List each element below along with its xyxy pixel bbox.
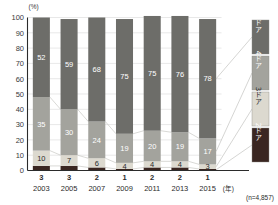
series-band-connector (105, 158, 116, 163)
legend-leader-lines (216, 37, 252, 170)
bottom-series-value-label: 2 (150, 173, 154, 182)
series-band-connector (50, 97, 61, 109)
segment-value-label: 68 (93, 65, 101, 74)
segment-value-label: 78 (203, 74, 211, 83)
series-band-connector (188, 161, 199, 164)
bottom-series-value-label: 1 (206, 173, 210, 182)
series-band-connector (133, 131, 144, 134)
segment-value-label: 24 (93, 136, 101, 145)
segment-value-label: 20 (148, 142, 156, 151)
legend-label: 2ドア (254, 123, 263, 141)
segment-value-label: 10 (37, 154, 45, 163)
legend-group: 5ドア4ドア3ドア2ドア (252, 15, 269, 162)
y-axis-tick-label: 0 (20, 166, 24, 175)
y-axis-tick-label: 60 (16, 75, 24, 84)
legend-label: 4ドア (254, 51, 263, 69)
y-axis-tick-label: 40 (16, 105, 24, 114)
y-axis-tick-labels: 0102030405060708090100 (11, 13, 24, 175)
segment-value-label: 7 (67, 156, 71, 165)
stacked-bar-chart: 0102030405060708090100 (%) 1035527305962… (0, 0, 278, 205)
y-axis-tick-label: 100 (11, 13, 24, 22)
series-band-connector (78, 155, 89, 158)
segment-value-label: 30 (65, 128, 73, 137)
y-axis-tick-label: 20 (16, 136, 24, 145)
bar-segment (61, 166, 78, 171)
x-axis-category-label: 2003 (33, 184, 50, 193)
segment-value-label: 75 (148, 69, 156, 78)
y-axis-tick-label: 10 (16, 151, 24, 160)
segment-value-label: 17 (203, 147, 211, 156)
x-axis-category-label: 2011 (144, 184, 160, 193)
y-axis-tick-label: 50 (16, 90, 24, 99)
bottom-series-value-label: 2 (95, 173, 99, 182)
series-band-connector (188, 167, 199, 169)
series-band-connector (133, 161, 144, 163)
series-band-connector (105, 122, 116, 134)
bottom-series-value-label: 3 (39, 173, 43, 182)
series-band-connector (105, 167, 116, 169)
legend-leader-line (216, 109, 252, 167)
legend-label: 3ドア (254, 87, 263, 105)
sample-size-label: (n=4,857) (246, 194, 274, 202)
segment-value-label: 75 (120, 72, 128, 81)
x-axis-category-label: 2005 (61, 184, 78, 193)
segment-value-label: 4 (150, 160, 154, 169)
segment-value-label: 52 (37, 53, 45, 62)
segment-value-label: 19 (120, 144, 128, 153)
legend-leader-line (216, 37, 252, 79)
chart-canvas: 0102030405060708090100 (%) 1035527305962… (0, 0, 278, 205)
y-axis-tick-label: 80 (16, 44, 24, 53)
segment-value-label: 19 (176, 142, 184, 151)
series-band-connector (161, 131, 172, 133)
x-axis-category-label: 2009 (116, 184, 133, 193)
bottom-series-value-label: 2 (178, 173, 182, 182)
y-axis-tick-label: 90 (16, 29, 24, 38)
series-band-connector (78, 109, 89, 121)
series-band-connector (50, 151, 61, 156)
x-axis-unit-label: (年) (223, 184, 234, 193)
legend-leader-line (216, 145, 252, 170)
segment-value-label: 6 (95, 159, 99, 168)
series-band-connector (133, 167, 144, 169)
x-axis-category-label: 2007 (88, 184, 105, 193)
legend-label: 5ドア (254, 15, 263, 33)
y-axis-unit-label: (%) (29, 3, 39, 11)
series-band-connector (78, 166, 89, 168)
y-axis-tick-label: 30 (16, 120, 24, 129)
series-band-connector (188, 132, 199, 138)
bottom-series-value-label: 1 (122, 173, 126, 182)
y-axis-unit-label: (%) (29, 3, 39, 11)
x-axis-category-label: 2013 (172, 184, 189, 193)
x-axis-category-label: 2015 (199, 184, 216, 193)
x-axis-category-labels: 32003320052200712009220112201312015(年) (33, 173, 234, 193)
segment-value-label: 59 (65, 60, 73, 69)
sample-size-note: (n=4,857) (246, 194, 274, 202)
segment-value-label: 35 (37, 120, 45, 129)
segment-value-label: 76 (176, 70, 184, 79)
bottom-series-value-label: 3 (67, 173, 71, 182)
y-axis-tick-label: 70 (16, 59, 24, 68)
bar-segment (33, 166, 50, 171)
segment-value-label: 4 (178, 160, 182, 169)
segment-value-label: 4 (122, 162, 126, 171)
legend-leader-line (216, 73, 252, 151)
